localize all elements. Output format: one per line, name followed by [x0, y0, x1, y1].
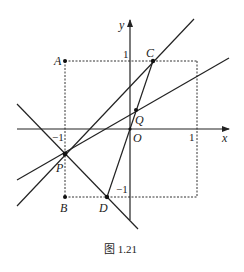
label-x-axis: x	[221, 131, 228, 145]
point-q	[134, 108, 138, 112]
label-origin: O	[133, 131, 142, 145]
tick-x-neg1: −1	[52, 131, 64, 143]
label-p: P	[55, 161, 64, 175]
label-b: B	[60, 201, 68, 215]
point-b	[63, 195, 67, 199]
label-a: A	[53, 54, 62, 68]
line-pc	[17, 19, 194, 206]
line-pd	[17, 104, 138, 229]
point-o	[128, 127, 131, 130]
label-c: C	[146, 46, 155, 60]
tick-x-1: 1	[189, 131, 195, 143]
tick-y-1: 1	[123, 48, 129, 60]
point-a	[63, 59, 67, 63]
label-d: D	[98, 201, 108, 215]
point-d	[105, 195, 109, 199]
diagram: A B C D P Q O x y −1 1 1 −1 图 1.21	[0, 0, 244, 272]
point-p	[63, 152, 68, 157]
figure-caption: 图 1.21	[104, 243, 137, 255]
tick-y-neg1: −1	[116, 183, 128, 195]
label-q: Q	[135, 113, 144, 127]
label-y-axis: y	[118, 18, 125, 32]
